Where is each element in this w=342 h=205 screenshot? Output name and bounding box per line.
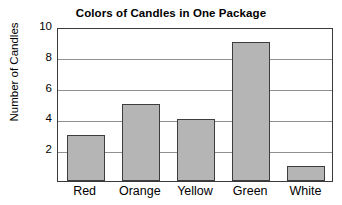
x-axis-tick-labels: RedOrangeYellowGreenWhite: [57, 184, 333, 204]
gridline-6: [58, 90, 332, 91]
bar-orange: [122, 104, 160, 181]
bar-green: [232, 42, 270, 181]
x-tick-label-white: White: [278, 184, 333, 198]
y-tick-label-6: 6: [0, 82, 52, 94]
y-tick-label-2: 2: [0, 143, 52, 155]
x-tick-label-orange: Orange: [112, 184, 167, 198]
y-tick-label-10: 10: [0, 20, 52, 32]
y-tick-label-4: 4: [0, 112, 52, 124]
x-tick-label-yellow: Yellow: [167, 184, 222, 198]
y-axis-tick-labels: 246810: [0, 0, 52, 205]
gridline-8: [58, 59, 332, 60]
x-tick-label-green: Green: [223, 184, 278, 198]
x-tick-label-red: Red: [57, 184, 112, 198]
plot-area: [57, 28, 333, 182]
bar-chart: Colors of Candles in One Package Number …: [0, 0, 342, 205]
bar-yellow: [177, 119, 215, 181]
bar-white: [287, 166, 325, 181]
y-tick-label-8: 8: [0, 51, 52, 63]
bar-red: [67, 135, 105, 181]
